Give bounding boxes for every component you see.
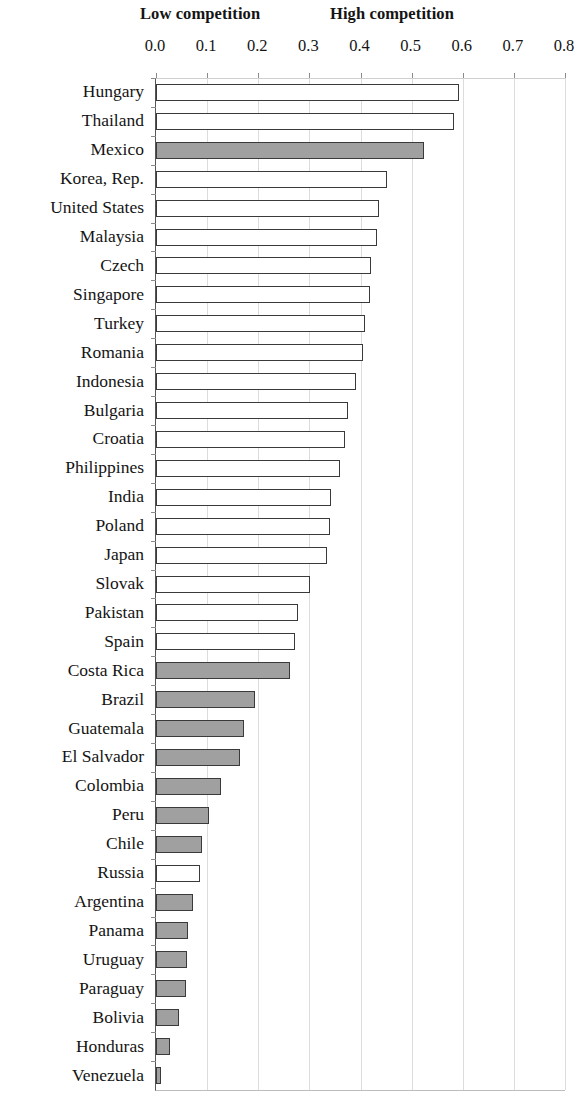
category-label: El Salvador: [62, 748, 144, 766]
y-axis-category-labels: HungaryThailandMexicoKorea, Rep.United S…: [0, 78, 150, 1090]
category-label: Bulgaria: [84, 402, 144, 420]
y-tick-mark: [151, 859, 156, 860]
y-tick-mark: [151, 974, 156, 975]
y-tick-mark: [151, 1003, 156, 1004]
x-tick-label-0.6: 0.6: [451, 36, 472, 56]
y-tick-mark: [151, 627, 156, 628]
x-tick-mark: [361, 73, 362, 78]
bar: [156, 460, 340, 477]
y-tick-mark: [151, 107, 156, 108]
bar: [156, 807, 209, 824]
x-tick-label-0.2: 0.2: [247, 36, 268, 56]
bar: [156, 691, 255, 708]
y-tick-mark: [151, 396, 156, 397]
category-label: Panama: [89, 922, 144, 940]
bar: [156, 547, 327, 564]
category-label: United States: [50, 199, 144, 217]
category-label: Peru: [112, 806, 144, 824]
x-tick-label-0.4: 0.4: [349, 36, 370, 56]
category-label: Thailand: [82, 112, 144, 130]
y-tick-mark: [151, 830, 156, 831]
y-tick-mark: [151, 223, 156, 224]
low-competition-label: Low competition: [140, 4, 260, 24]
y-tick-mark: [151, 743, 156, 744]
bar: [156, 778, 221, 795]
y-tick-mark: [151, 1061, 156, 1062]
category-label: Czech: [100, 257, 144, 275]
plot-area: [155, 78, 565, 1091]
category-label: Indonesia: [76, 373, 144, 391]
bar: [156, 373, 356, 390]
gridline: [514, 78, 515, 1090]
category-label: Chile: [106, 835, 144, 853]
y-tick-mark: [151, 772, 156, 773]
category-label: Uruguay: [83, 951, 144, 969]
x-tick-mark: [514, 73, 515, 78]
category-label: Turkey: [94, 315, 144, 333]
y-tick-mark: [151, 165, 156, 166]
high-competition-label: High competition: [330, 4, 454, 24]
category-label: Argentina: [74, 893, 144, 911]
bar: [156, 518, 330, 535]
y-tick-mark: [151, 888, 156, 889]
bar: [156, 576, 310, 593]
y-tick-mark: [151, 425, 156, 426]
y-tick-mark: [151, 945, 156, 946]
bar: [156, 980, 186, 997]
x-tick-label-0.7: 0.7: [503, 36, 524, 56]
category-label: Russia: [97, 864, 144, 882]
x-tick-label-0.5: 0.5: [400, 36, 421, 56]
bar: [156, 720, 244, 737]
bar: [156, 489, 331, 506]
category-label: Spain: [104, 633, 144, 651]
bar: [156, 344, 363, 361]
bar: [156, 922, 188, 939]
y-tick-mark: [151, 801, 156, 802]
x-tick-label-0.3: 0.3: [298, 36, 319, 56]
category-label: Venezuela: [72, 1067, 144, 1085]
bar: [156, 315, 365, 332]
y-tick-mark: [151, 656, 156, 657]
x-tick-mark: [156, 73, 157, 78]
y-tick-mark: [151, 917, 156, 918]
y-tick-mark: [151, 483, 156, 484]
category-label: Slovak: [95, 575, 144, 593]
bar: [156, 662, 290, 679]
x-tick-mark: [412, 73, 413, 78]
y-tick-mark: [151, 512, 156, 513]
y-tick-mark: [151, 367, 156, 368]
category-label: Poland: [95, 517, 144, 535]
bar: [156, 113, 454, 130]
bar: [156, 402, 348, 419]
category-label: Mexico: [91, 141, 144, 159]
category-label: Croatia: [92, 430, 144, 448]
category-label: Colombia: [75, 777, 144, 795]
y-tick-mark: [151, 280, 156, 281]
gridline: [463, 78, 464, 1090]
category-label: Korea, Rep.: [60, 170, 144, 188]
category-label: Philippines: [65, 459, 144, 477]
category-label: Pakistan: [85, 604, 144, 622]
x-tick-mark: [565, 73, 566, 78]
bar: [156, 1067, 161, 1084]
bar: [156, 749, 240, 766]
y-tick-mark: [151, 1032, 156, 1033]
x-tick-label-0.8: 0.8: [554, 36, 575, 56]
category-label: Costa Rica: [68, 662, 144, 680]
y-tick-mark: [151, 714, 156, 715]
x-tick-mark: [258, 73, 259, 78]
gridline: [565, 78, 566, 1090]
bar: [156, 286, 370, 303]
bar: [156, 865, 200, 882]
bar: [156, 431, 345, 448]
bar: [156, 229, 377, 246]
y-tick-mark: [151, 685, 156, 686]
x-tick-mark: [207, 73, 208, 78]
category-label: Malaysia: [80, 228, 144, 246]
y-tick-mark: [151, 309, 156, 310]
bar: [156, 1038, 170, 1055]
y-tick-mark: [151, 194, 156, 195]
y-tick-mark: [151, 541, 156, 542]
y-tick-mark: [151, 251, 156, 252]
bar: [156, 200, 379, 217]
